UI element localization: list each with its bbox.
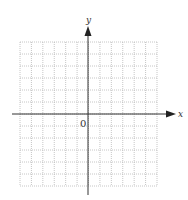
y-axis-arrow-icon — [85, 26, 92, 36]
origin-label: 0 — [80, 118, 86, 129]
coordinate-plane: x y 0 — [0, 0, 188, 200]
x-axis-arrow-icon — [166, 111, 176, 118]
x-axis-label: x — [178, 109, 183, 119]
y-axis-label: y — [85, 15, 92, 25]
